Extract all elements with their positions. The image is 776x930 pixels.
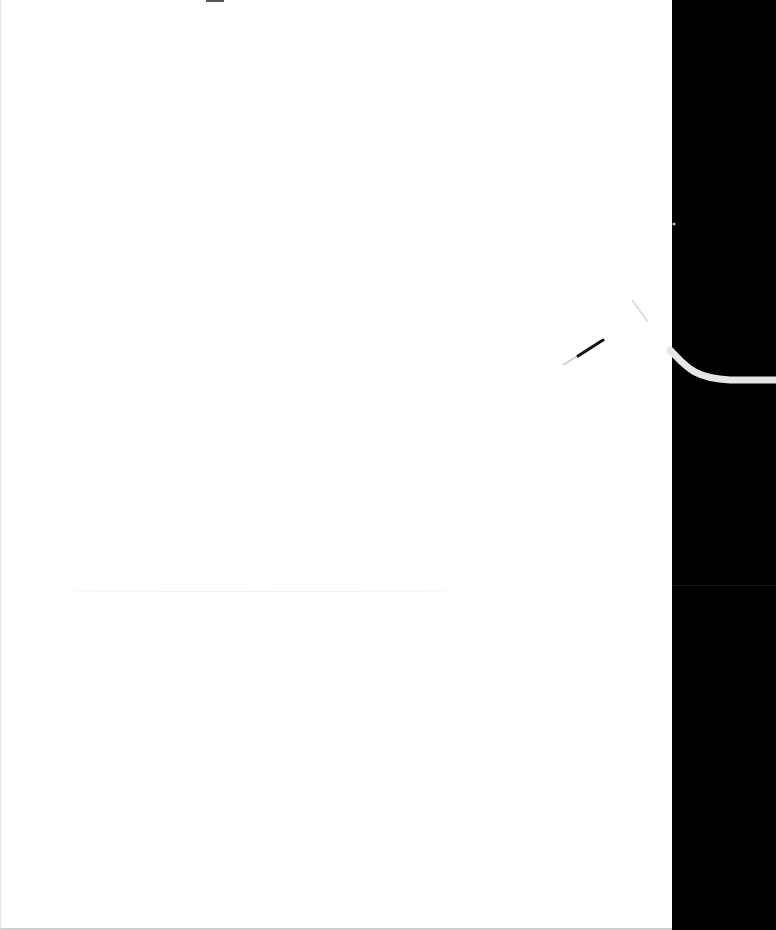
paper-shadow-streak	[632, 300, 648, 322]
cable-and-shadow	[0, 0, 776, 930]
edge-speck	[673, 223, 676, 226]
dark-mark	[578, 340, 603, 356]
cable	[670, 350, 776, 380]
